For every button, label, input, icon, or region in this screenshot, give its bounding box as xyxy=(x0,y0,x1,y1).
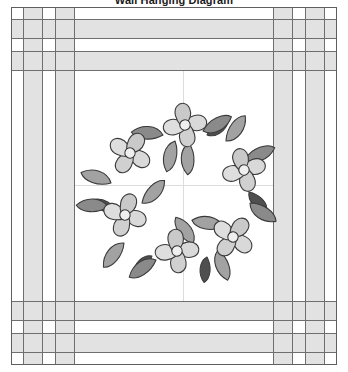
quilt-diagram xyxy=(11,7,337,365)
page-title: Wall Hanging Diagram xyxy=(0,0,348,7)
wall-hanging-diagram-page: Wall Hanging Diagram xyxy=(0,0,348,372)
